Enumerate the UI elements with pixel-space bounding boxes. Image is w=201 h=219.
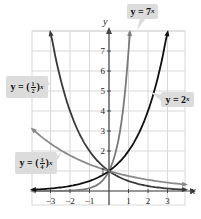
label-text: y = ( (11, 82, 30, 92)
denominator: 4 (41, 164, 44, 170)
label-seven-power-x: y = 7x (127, 4, 158, 19)
fraction-three-quarter: 34 (40, 157, 45, 170)
y-tick-label: 6 (101, 66, 106, 76)
y-tick-label: 2 (101, 146, 106, 156)
label-text: y = 2 (165, 95, 186, 105)
label-text: y = ( (20, 158, 39, 168)
y-tick-label: 1 (101, 166, 106, 176)
label-half-power-x: y = ( 12 )x (6, 76, 48, 98)
y-tick-label: 5 (101, 86, 106, 96)
x-tick-label: 3 (165, 196, 170, 206)
label-exp: x (186, 96, 190, 103)
label-two-power-x: y = 2x (161, 92, 194, 107)
x-tick-label: 2 (146, 196, 151, 206)
tick-labels: −3−2−11231234567 (46, 46, 171, 206)
x-tick-label: −1 (85, 196, 95, 206)
y-tick-label: 3 (101, 126, 106, 136)
pointer (137, 18, 146, 30)
denominator: 2 (32, 88, 35, 94)
x-tick-label: −3 (46, 196, 56, 206)
label-exp: x (151, 8, 155, 15)
y-axis-label: y (102, 16, 108, 27)
x-tick-label: −2 (65, 196, 75, 206)
fraction-half: 12 (31, 81, 36, 94)
numerator: 3 (40, 157, 45, 164)
x-tick-label: 1 (126, 196, 131, 206)
numerator: 1 (31, 81, 36, 88)
label-exp: x (40, 84, 44, 91)
label-text: y = 7 (130, 7, 151, 17)
label-exp: x (49, 160, 53, 167)
y-tick-label: 4 (101, 106, 106, 116)
label-three-quarter-power-x: y = ( 34 )x (15, 152, 57, 174)
exponential-chart: xy −3−2−11231234567 (0, 0, 201, 219)
y-tick-label: 7 (101, 46, 106, 56)
x-axis-label: x (190, 185, 196, 196)
